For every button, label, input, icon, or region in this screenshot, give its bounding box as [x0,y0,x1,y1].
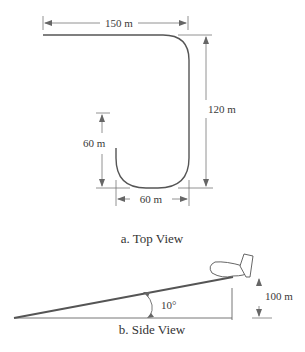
top-view: 150 m 120 m 60 m 60 m a. Top View [43,16,236,246]
angle-arc [146,294,152,316]
label-150m: 150 m [105,17,133,29]
glide-slope-line [14,277,233,318]
label-100m: 100 m [265,290,293,302]
runway-diagram: 150 m 120 m 60 m 60 m a. Top View [0,0,305,352]
label-60m-vertical: 60 m [83,137,106,149]
airplane-icon [210,254,253,277]
side-view: 10° 100 m b. Side View [14,254,293,337]
angle-label: 10° [161,299,176,311]
dimension-60m-vertical [96,113,130,188]
caption-top-view: a. Top View [121,231,184,246]
label-120m: 120 m [208,103,236,115]
caption-side-view: b. Side View [119,322,186,337]
label-60m-horizontal: 60 m [140,193,163,205]
flight-path [43,35,189,188]
